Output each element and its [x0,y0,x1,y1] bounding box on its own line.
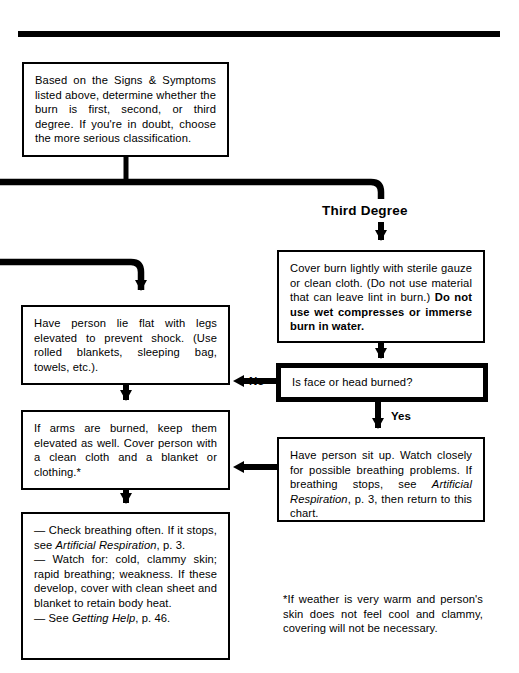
wire-secondary-bus [0,262,141,290]
node-arms-burned-elevate[interactable]: If arms are burned, keep them elevated a… [21,410,230,490]
top-rule-bar [18,31,500,37]
node-monitor-item-3-plain-1: — See [34,612,72,624]
flowchart-canvas: Based on the Signs & Symptoms listed abo… [0,0,519,673]
node-lie-flat-legs-elevated[interactable]: Have person lie flat with legs elevated … [21,305,230,385]
node-monitor-item-2: — Watch for: cold, clammy skin; rapid br… [34,552,217,610]
node-cover-burn-text: Cover burn lightly with sterile gauze or… [290,261,472,334]
node-monitor-item-3-reference: Getting Help [72,612,135,624]
node-sit-up-watch-breathing[interactable]: Have person sit up. Watch closely for po… [277,437,485,522]
node-monitor-item-1: — Check breathing often. If it stops, se… [34,523,217,552]
node-sit-up-text: Have person sit up. Watch closely for po… [290,448,472,521]
node-monitor-item-1-plain-2: , p. 3. [157,539,186,551]
node-assess-burn-degree[interactable]: Based on the Signs & Symptoms listed abo… [22,62,229,157]
node-monitor-breathing-and-shock[interactable]: — Check breathing often. If it stops, se… [21,512,230,660]
node-arms-burned-text: If arms are burned, keep them elevated a… [23,412,228,486]
edge-label-yes: Yes [391,410,411,422]
wire-main-bus [0,182,381,199]
footnote-weather-warm: *If weather is very warm and person's sk… [283,592,483,636]
node-monitor-item-1-reference: Artificial Respiration [56,539,157,551]
node-question-text: Is face or head burned? [281,372,423,393]
node-monitor-item-3: — See Getting Help, p. 46. [34,611,217,626]
node-lie-flat-text: Have person lie flat with legs elevated … [23,307,228,381]
node-assess-burn-degree-text: Based on the Signs & Symptoms listed abo… [24,64,227,153]
branch-label-third-degree: Third Degree [322,203,408,218]
node-question-face-or-head-burned[interactable]: Is face or head burned? [276,363,488,402]
node-cover-burn[interactable]: Cover burn lightly with sterile gauze or… [277,250,485,343]
node-monitor-item-3-plain-2: , p. 46. [135,612,170,624]
edge-label-no: No [249,375,264,387]
